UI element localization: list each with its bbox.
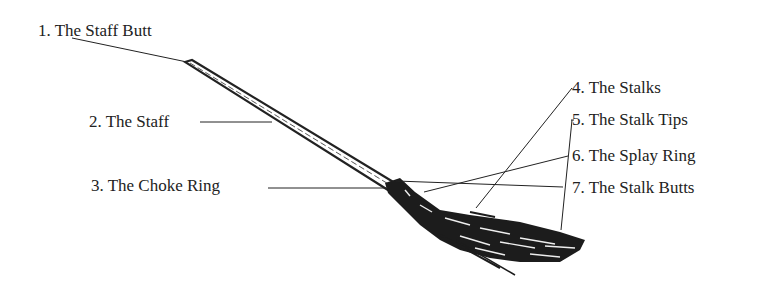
broom-head-shape <box>385 178 585 275</box>
label-staff-butt: 1. The Staff Butt <box>38 21 152 41</box>
label-stalks: 4. The Stalks <box>572 78 661 98</box>
label-stalk-butts: 7. The Stalk Butts <box>572 178 694 198</box>
label-staff: 2. The Staff <box>89 112 169 132</box>
broom-diagram: 1. The Staff Butt 2. The Staff 3. The Ch… <box>0 0 783 293</box>
label-choke-ring: 3. The Choke Ring <box>91 176 220 196</box>
label-stalk-tips: 5. The Stalk Tips <box>572 110 688 130</box>
staff-shape <box>185 60 395 190</box>
leader-lines <box>72 38 574 230</box>
label-splay-ring: 6. The Splay Ring <box>572 146 695 166</box>
